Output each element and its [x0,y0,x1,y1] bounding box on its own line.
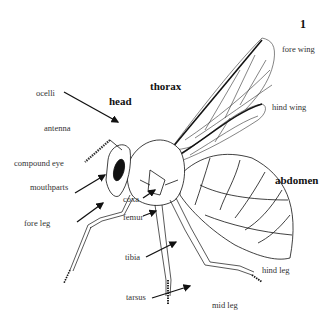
mouthparts-label: mouthparts [30,183,68,192]
abdomen-shape [180,154,293,259]
femur-label: femur [123,213,143,222]
tibia-label: tibia [125,253,140,262]
tarsus-label: tarsus [126,293,146,302]
figure-number: 1 [300,18,306,30]
fore-leg-shape [64,195,133,283]
fore-leg-label: fore leg [24,219,50,228]
ocelli-label: ocelli [36,89,55,98]
head-label: head [109,96,132,107]
abdomen-label: abdomen [275,175,318,186]
coxa-label: coxa [123,195,139,204]
fore-wing-label: fore wing [282,45,315,54]
mid-leg-shape [155,205,171,305]
head-shape [85,140,131,197]
antenna-label: antenna [44,124,70,133]
compound-eye-label: compound eye [14,159,64,168]
thorax-label: thorax [150,81,181,92]
hind-leg-label: hind leg [262,266,290,275]
hind-wing-label: hind wing [272,103,306,112]
mid-leg-label: mid leg [212,301,238,310]
